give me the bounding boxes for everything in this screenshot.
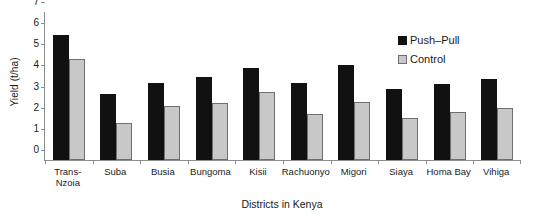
x-axis-tick-label: Busia — [139, 166, 187, 188]
x-axis-tick-mark — [45, 160, 46, 164]
x-axis-tick-mark — [378, 160, 379, 164]
legend-swatch-icon — [398, 55, 407, 64]
y-axis-tick-label: 2 — [33, 103, 39, 113]
bar — [148, 83, 164, 160]
x-axis-tick-mark — [188, 160, 189, 164]
y-axis-tick-label: 5 — [33, 39, 39, 49]
bar — [100, 94, 116, 160]
x-axis-tick-label: Kisii — [234, 166, 282, 188]
legend: Push–PullControl — [398, 34, 460, 65]
x-axis-tick-mark — [426, 160, 427, 164]
bar — [497, 108, 513, 160]
y-axis-tick-label: 7 — [33, 0, 39, 7]
legend-label: Control — [410, 53, 445, 65]
x-axis-tick-label: Vihiga — [472, 166, 520, 188]
y-axis-tick-label: 6 — [33, 18, 39, 28]
bar — [116, 123, 132, 160]
bar — [434, 84, 450, 160]
bar-group — [140, 12, 188, 160]
bar-group — [473, 12, 521, 160]
y-axis-tick-label: 4 — [33, 60, 39, 70]
y-axis-title: Yield (t/ha) — [8, 2, 22, 162]
x-axis-tick-mark — [473, 160, 474, 164]
y-axis-tick-label: 3 — [33, 82, 39, 92]
bar — [481, 79, 497, 160]
y-axis-tick-label: 1 — [33, 124, 39, 134]
bar-group — [93, 12, 141, 160]
bar — [307, 114, 323, 161]
legend-label: Push–Pull — [410, 34, 460, 46]
bar — [450, 112, 466, 160]
x-axis-tick-label: Suba — [92, 166, 140, 188]
bar-group — [235, 12, 283, 160]
x-axis-tick-mark — [140, 160, 141, 164]
x-axis-tick-mark — [331, 160, 332, 164]
x-axis-tick-mark — [283, 160, 284, 164]
x-axis-tick-mark — [235, 160, 236, 164]
y-axis-tick-mark — [41, 2, 45, 3]
x-axis-tick-mark — [520, 160, 521, 164]
x-axis-tick-label: Migori — [330, 166, 378, 188]
x-axis-tick-label: Trans- Nzoia — [44, 166, 92, 188]
x-axis-tick-label: Bungoma — [187, 166, 235, 188]
bar-group — [45, 12, 93, 160]
bar — [354, 102, 370, 160]
bar — [259, 92, 275, 160]
y-axis-tick-label: 0 — [33, 145, 39, 155]
bar — [69, 59, 85, 160]
bar — [386, 89, 402, 160]
bar — [53, 35, 69, 160]
legend-swatch-icon — [398, 36, 407, 45]
x-axis-tick-label: Homa Bay — [425, 166, 473, 188]
bar-group — [283, 12, 331, 160]
x-axis-tick-label: Siaya — [377, 166, 425, 188]
bar-group — [188, 12, 236, 160]
x-axis-tick-label: Rachuonyo — [282, 166, 330, 188]
bar — [402, 118, 418, 160]
bar — [212, 103, 228, 160]
bar — [243, 68, 259, 160]
x-axis-tick-labels: Trans- NzoiaSubaBusiaBungomaKisiiRachuon… — [44, 166, 520, 188]
bar — [338, 65, 354, 160]
bar — [291, 83, 307, 160]
bar-group — [331, 12, 379, 160]
bar-chart: Yield (t/ha) 01234567 Trans- NzoiaSubaBu… — [0, 0, 535, 221]
bar — [196, 77, 212, 161]
legend-item: Push–Pull — [398, 34, 460, 46]
x-axis-tick-mark — [93, 160, 94, 164]
x-axis-title: Districts in Kenya — [44, 198, 520, 211]
legend-item: Control — [398, 53, 460, 65]
bar — [164, 106, 180, 160]
